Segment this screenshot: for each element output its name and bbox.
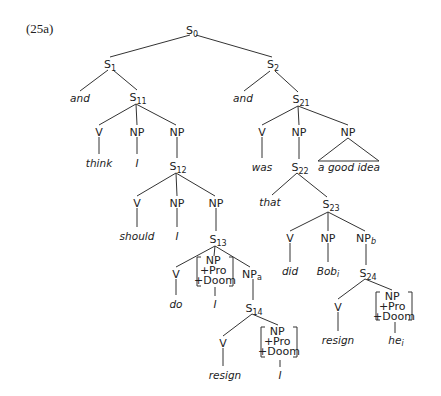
- node-np-s11-a: NP: [130, 126, 145, 139]
- node-np-a: NPa: [242, 268, 262, 282]
- node-np-s12-b: NP: [209, 197, 224, 210]
- node-v-s13: V: [172, 268, 180, 281]
- node-v-s24: V: [334, 301, 342, 314]
- word-he-i: hei: [388, 334, 404, 348]
- node-v-s21: V: [258, 126, 266, 139]
- feature-np-s24: NP +Pro +Doom: [373, 290, 415, 323]
- word-bob-i: Bobi: [317, 265, 340, 279]
- example-label: (25a): [26, 21, 53, 36]
- feature-np-s14: NP +Pro +Doom: [258, 325, 300, 358]
- node-np-s23-a: NP: [321, 232, 336, 245]
- word-that: that: [259, 196, 281, 208]
- word-i-4: I: [278, 369, 281, 381]
- word-resign-1: resign: [209, 369, 241, 381]
- node-s13: S13: [209, 233, 226, 248]
- word-i-2: I: [175, 230, 178, 242]
- node-s24: S24: [359, 267, 376, 282]
- node-s12: S12: [169, 160, 186, 175]
- node-s14: S14: [245, 302, 262, 317]
- node-np-s21-a: NP: [292, 126, 307, 139]
- node-np-s12-a: NP: [170, 197, 185, 210]
- node-np-s21-b: NP: [341, 126, 356, 139]
- word-and-2: and: [233, 92, 253, 104]
- feature-np-s13: NP +Pro +Doom: [194, 254, 236, 287]
- word-i-1: I: [135, 157, 138, 169]
- node-s22: S22: [291, 161, 308, 176]
- node-s23: S23: [322, 198, 339, 213]
- node-s11: S11: [129, 91, 146, 106]
- word-and-1: and: [70, 92, 90, 104]
- word-should: should: [120, 230, 155, 242]
- node-np-b: NPb: [356, 232, 376, 246]
- phrase-a-good-idea: a good idea: [318, 161, 380, 173]
- node-v-s23: V: [286, 232, 294, 245]
- node-s2: S2: [267, 58, 279, 73]
- word-resign-2: resign: [322, 334, 354, 346]
- word-i-3: I: [213, 298, 216, 310]
- node-v-s14: V: [219, 337, 227, 350]
- syntax-tree-diagram: (25a): [0, 0, 441, 396]
- tree-edges: [80, 35, 395, 367]
- word-think: think: [86, 157, 113, 169]
- word-was: was: [252, 161, 273, 173]
- node-s0: S0: [186, 24, 198, 39]
- node-v-s11: V: [95, 126, 103, 139]
- word-did: did: [282, 265, 299, 277]
- node-s21: S21: [292, 93, 309, 108]
- node-v-s12: V: [133, 197, 141, 210]
- node-np-s11-b: NP: [170, 126, 185, 139]
- word-do: do: [169, 298, 182, 310]
- node-s1: S1: [104, 58, 116, 73]
